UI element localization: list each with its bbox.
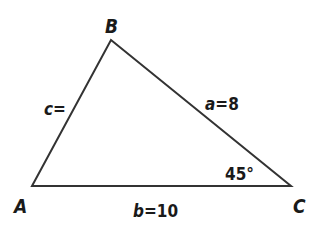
side-c-eq: =	[53, 99, 66, 119]
side-label-b: b=10	[133, 201, 178, 221]
side-label-c: c=	[44, 99, 66, 119]
side-a-eq: =8	[215, 94, 238, 114]
vertex-label-b: B	[105, 15, 118, 37]
side-a-var: a	[205, 94, 215, 114]
side-c-var: c	[44, 99, 53, 119]
side-b-var: b	[133, 201, 144, 221]
vertex-label-c: C	[293, 195, 306, 217]
angle-c-label: 45°	[225, 164, 254, 184]
side-label-a: a=8	[205, 94, 239, 114]
side-b-eq: =10	[144, 201, 178, 221]
triangle-diagram: B A C c= a=8 b=10 45°	[0, 0, 321, 227]
vertex-label-a: A	[12, 195, 27, 217]
